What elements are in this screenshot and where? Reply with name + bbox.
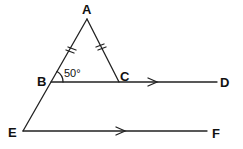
angle-arc-icon xyxy=(57,72,63,83)
label-F: F xyxy=(212,127,220,140)
angle-label: 50° xyxy=(64,68,81,79)
label-C: C xyxy=(120,70,129,83)
label-E: E xyxy=(8,126,17,139)
segment-AC xyxy=(87,19,119,82)
label-B: B xyxy=(37,75,46,88)
label-D: D xyxy=(220,76,229,89)
label-A: A xyxy=(82,3,91,16)
geometry-diagram: A B C D E F 50° xyxy=(0,0,243,149)
